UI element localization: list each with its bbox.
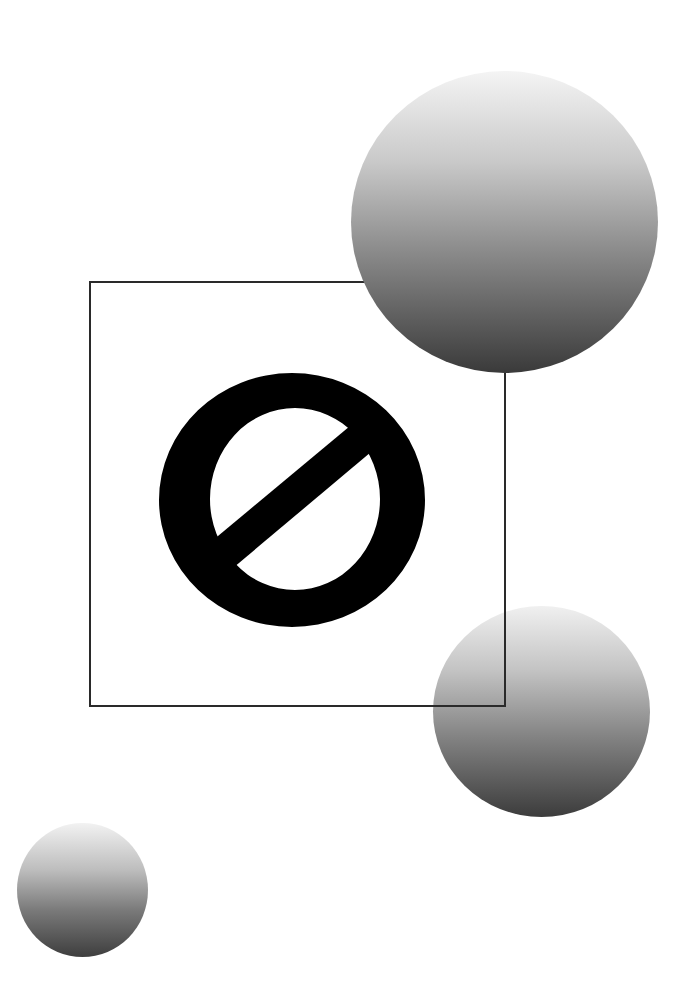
cover-canvas [0, 0, 694, 1007]
small-gradient-sphere [17, 823, 148, 957]
large-gradient-sphere [351, 71, 658, 373]
empty-set-icon [150, 360, 440, 640]
